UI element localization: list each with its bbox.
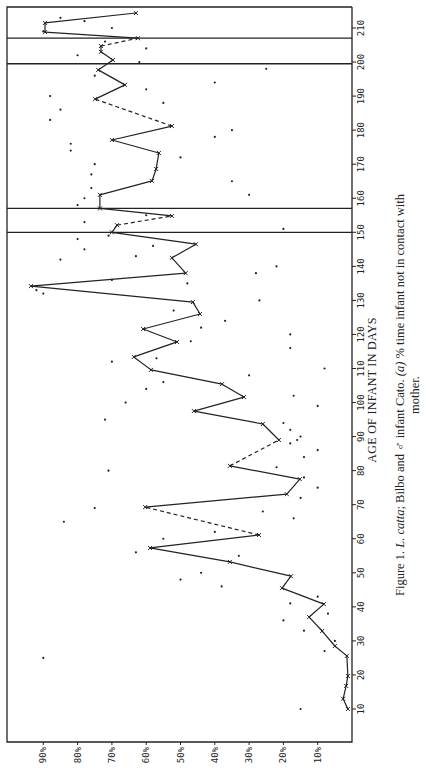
scatter-dot [145,388,147,390]
line-segment [143,314,200,329]
line-segment [263,424,279,440]
scatter-dot [317,487,319,489]
scatter-dot [42,657,44,659]
line-segment [150,535,259,548]
line-segment [98,60,113,70]
line-segment [117,216,172,225]
scatter-dot [90,187,92,189]
x-tick-label: 160 [356,190,366,206]
scatter-dot [323,650,325,652]
caption-line-1: Figure 1. L. catta; Bilbo and ♂ infant C… [393,193,407,596]
line-segment [95,99,172,126]
data-point-marker [333,644,337,648]
caption-line-2: mother. [408,376,422,414]
x-tick-label: 200 [356,54,366,70]
x-tick-label: 40 [356,601,366,612]
scatter-dot [162,102,164,104]
scatter-dot [49,95,51,97]
x-tick-label: 180 [356,122,366,138]
scatter-dot [248,194,250,196]
data-point-marker [123,83,127,87]
line-segment [194,397,244,411]
line-segment [151,370,222,384]
x-tick-label: 170 [356,156,366,172]
scatter-dot [104,418,106,420]
scatter-dot [111,361,113,363]
scatter-dot [214,136,216,138]
scatter-dot [83,197,85,199]
scatter-dot [35,289,37,291]
y-tick-label: 30% [244,746,254,763]
scatter-dot [214,81,216,83]
y-axis-ticks: 10%20%30%40%50%60%70%80%90% [38,742,322,763]
line-segment [112,140,159,153]
scatter-dot [135,255,137,257]
scatter-dot [299,497,301,499]
scatter-dot [70,143,72,145]
scatter-dot [59,109,61,111]
line-segment [193,302,200,314]
line-segment [101,38,138,46]
scatter-dot [138,61,140,63]
line-segment [45,13,136,23]
line-segment [143,329,177,342]
scatter-dot [104,41,106,43]
scatter-dot [77,204,79,206]
line-segment [287,479,300,494]
line-segment [322,631,335,646]
scatter-dot [83,248,85,250]
line-segment [150,548,230,562]
x-tick-label: 20 [356,670,366,681]
scatter-dot [317,405,319,407]
scatter-dot [77,54,79,56]
scatter-dot [94,507,96,509]
y-tick-label: 90% [38,746,48,763]
scatter-dot [238,555,240,557]
line-segment [347,656,348,676]
scatter-dot [59,17,61,19]
scatter-dot [289,442,291,444]
data-point-marker [111,58,115,62]
scatter-dot [94,163,96,165]
scatter-dot [255,272,257,274]
figure-caption: Figure 1. L. catta; Bilbo and ♂ infant C… [393,193,422,596]
scatter-dot [179,156,181,158]
data-point-marker [320,629,324,633]
y-tick-label: 60% [141,746,151,763]
scatter-dot [107,470,109,472]
scatter-dot [221,585,223,587]
line-segment [145,494,287,507]
scatter-dot [179,579,181,581]
axis-frame [7,7,352,742]
line-segment [112,232,196,244]
rotated-line-chart: 1020304050607080901001101201301401501601… [0,0,426,773]
scatter-dot [334,640,336,642]
scatter-dot [303,630,305,632]
scatter-dot [135,551,137,553]
scatter-dot [83,221,85,223]
scatter-dot [289,602,291,604]
scatter-dot [296,439,298,441]
line-segment [31,273,186,286]
scatter-dot [282,228,284,230]
scatter-dot [293,517,295,519]
plot-frame [7,7,352,742]
x-tick-label: 130 [356,292,366,308]
x-tick-label: 50 [356,567,366,578]
scatter-dot [186,282,188,284]
scatter-dot [289,429,291,431]
scatter-dot [282,422,284,424]
x-tick-label: 140 [356,258,366,274]
line-segment [230,466,300,479]
scatter-dot [173,310,175,312]
data-point-marker [96,68,100,72]
scatter-dot [49,119,51,121]
scatter-dot [107,235,109,237]
x-tick-label: 210 [356,20,366,36]
scatter-dot [145,214,147,216]
y-tick-label: 20% [278,746,288,763]
x-tick-label: 10 [356,704,366,715]
scatter-dot [323,367,325,369]
scatter-dot [327,613,329,615]
scatter-dot [77,238,79,240]
